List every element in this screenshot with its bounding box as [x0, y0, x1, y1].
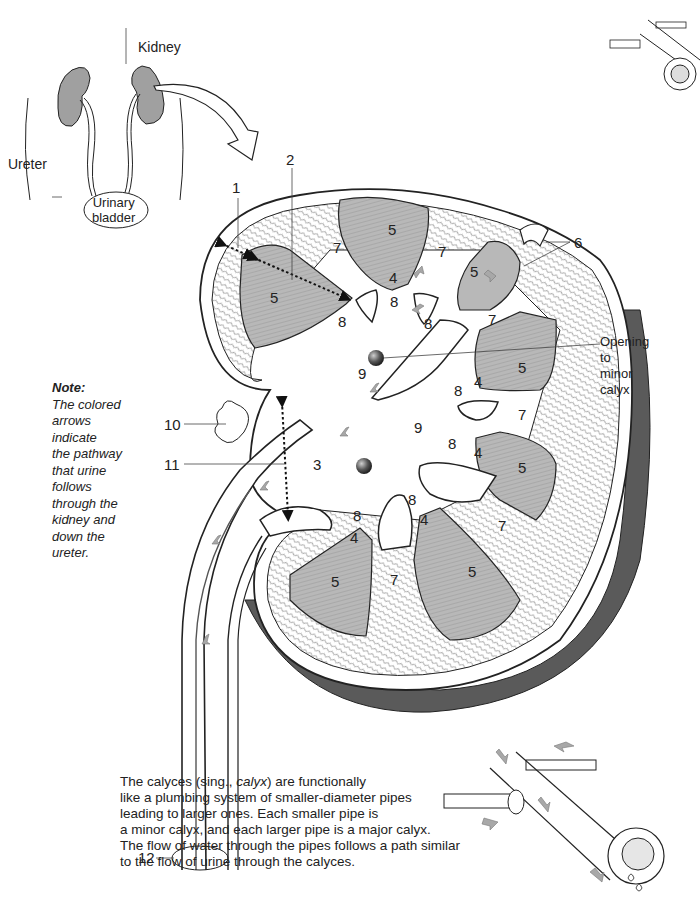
label-5: 5 [388, 222, 396, 237]
label-5: 5 [518, 360, 526, 375]
label-5: 5 [468, 564, 476, 579]
label-11: 11 [164, 457, 180, 472]
label-8: 8 [353, 508, 361, 523]
note-line: through the [52, 496, 132, 513]
label-4: 4 [474, 445, 482, 460]
label-7: 7 [438, 244, 446, 259]
bladder-line2: bladder [92, 210, 135, 225]
kidney-diagram: Kidney Ureter Urinary bladder 1 2 3 4 4 … [0, 0, 700, 908]
note-line: The colored [52, 397, 132, 414]
label-8: 8 [454, 383, 462, 398]
label-9: 9 [414, 420, 422, 435]
caption-text: ) are functionally [267, 774, 366, 789]
note-line: kidney and [52, 512, 132, 529]
label-2: 2 [286, 152, 294, 167]
note-block: Note: The colored arrows indicate the pa… [52, 380, 132, 562]
label-4: 4 [389, 270, 397, 285]
label-3: 3 [313, 457, 321, 472]
label-7: 7 [390, 572, 398, 587]
annotation-line: Opening [600, 334, 649, 350]
label-7: 7 [488, 312, 496, 327]
label-8: 8 [390, 294, 398, 309]
label-7: 7 [518, 407, 526, 422]
renal-fat [215, 401, 249, 443]
caption-term-calyx: calyx [236, 774, 267, 789]
note-line: follows [52, 479, 132, 496]
zoom-arrow [154, 84, 258, 160]
note-title: Note: [52, 380, 132, 397]
pipe-illustration-large [444, 742, 664, 891]
pipe-illustration-small [610, 20, 700, 90]
caption-line: like a plumbing system of smaller-diamet… [120, 790, 460, 806]
caption-line: The flow of water through the pipes foll… [120, 838, 460, 854]
note-line: that urine [52, 463, 132, 480]
annotation-line: calyx [600, 382, 649, 398]
label-4: 4 [350, 530, 358, 545]
label-5: 5 [331, 574, 339, 589]
caption-line: leading to larger ones. Each smaller pip… [120, 806, 460, 822]
caption-line: The calyces (sing., calyx) are functiona… [120, 774, 460, 790]
caption-block: The calyces (sing., calyx) are functiona… [120, 774, 460, 870]
label-8: 8 [338, 314, 346, 329]
label-7: 7 [498, 518, 506, 533]
label-8: 8 [448, 436, 456, 451]
label-kidney: Kidney [138, 40, 181, 54]
annotation-line: minor [600, 366, 649, 382]
label-8: 8 [424, 316, 432, 331]
label-8: 8 [408, 492, 416, 507]
label-6: 6 [574, 235, 582, 250]
opening-ball-2 [356, 458, 372, 474]
label-5: 5 [270, 290, 278, 305]
right-kidney-small [132, 66, 164, 124]
label-9: 9 [358, 366, 366, 381]
overview-figure [25, 66, 258, 228]
label-urinary-bladder: Urinary bladder [92, 195, 135, 225]
left-kidney-small [58, 67, 90, 126]
bladder-line1: Urinary [92, 195, 135, 210]
note-line: indicate [52, 430, 132, 447]
note-line: the pathway [52, 446, 132, 463]
annotation-opening-to-minor-calyx: Opening to minor calyx [600, 334, 649, 398]
label-7: 7 [333, 240, 341, 255]
caption-text: The calyces (sing., [120, 774, 236, 789]
label-ureter: Ureter [8, 157, 47, 171]
label-1: 1 [232, 180, 240, 195]
note-line: ureter. [52, 545, 132, 562]
label-5: 5 [470, 264, 478, 279]
note-line: arrows [52, 413, 132, 430]
label-4: 4 [474, 374, 482, 389]
caption-line: a minor calyx, and each larger pipe is a… [120, 822, 460, 838]
note-line: down the [52, 529, 132, 546]
caption-line: to the flow of urine through the calyces… [120, 854, 460, 870]
label-5: 5 [518, 460, 526, 475]
label-10: 10 [164, 417, 181, 432]
opening-to-minor-calyx [368, 350, 384, 366]
annotation-line: to [600, 350, 649, 366]
label-4: 4 [420, 512, 428, 527]
